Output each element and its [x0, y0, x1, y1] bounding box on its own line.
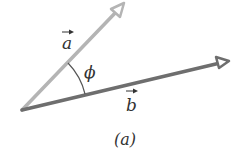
figure-caption: (a): [114, 130, 136, 149]
svg-text:a: a: [62, 33, 72, 53]
angle-label: ϕ: [84, 62, 96, 82]
label-vector-a: a: [62, 30, 74, 54]
svg-text:b: b: [126, 95, 137, 115]
angle-arc: [68, 63, 85, 94]
label-vector-b: b: [126, 89, 138, 116]
vector-a-arrow: [22, 3, 124, 110]
vector-diagram: a ϕ b (a): [0, 0, 231, 161]
